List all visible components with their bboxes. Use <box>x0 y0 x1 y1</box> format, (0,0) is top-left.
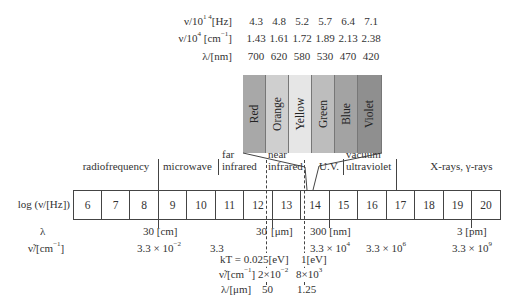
wavelength-30: 30 <box>256 225 267 237</box>
scale-tick: 15 <box>329 190 358 220</box>
scale-tick: 9 <box>158 190 187 220</box>
energy-wavelength-value-2: 1.25 <box>297 283 316 295</box>
scale-tick: 13 <box>272 190 301 220</box>
scale-tick: 19 <box>443 190 472 220</box>
region-microwave: microwave <box>160 160 215 172</box>
wavelength-3pm: 3 [pm] <box>457 225 487 237</box>
wavelength-30cm: 30 [cm] <box>143 225 178 237</box>
scale-tick: 10 <box>186 190 216 220</box>
region-divider <box>396 159 397 190</box>
kt-dashed-line <box>266 160 267 285</box>
region-near-infrared-bottom: infrared <box>268 160 303 172</box>
wavenumber-value: 3.3 × 10−2 <box>137 242 181 254</box>
wavelength-um: [μm] <box>271 225 293 237</box>
region-radiofrequency: radiofrequency <box>79 160 153 172</box>
region-vacuum-uv-top: vacuum <box>346 148 381 160</box>
region-divider <box>343 159 344 175</box>
wavenumber-value: 3.3 × 106 <box>366 242 406 254</box>
region-far-infrared-top: far <box>222 148 234 160</box>
wavelength-label: λ <box>40 225 45 237</box>
scale-tick: 17 <box>386 190 415 220</box>
wavenumber-value: 3.3 × 109 <box>452 242 492 254</box>
region-near-infrared-top: near <box>268 148 287 160</box>
scale-tick: 12 <box>243 190 273 220</box>
ev-label: 1[eV] <box>300 253 328 265</box>
kt-label: kT = 0.025[eV] <box>219 253 290 265</box>
energy-wavelength-label: λ/[μm] <box>221 283 251 295</box>
energy-wavenumber-value-2: 8×103 <box>296 268 322 280</box>
scale-tick: 8 <box>129 190 159 220</box>
wavelength-300nm: 300 [nm] <box>310 225 351 237</box>
energy-wavenumber-value-1: 2×10−2 <box>258 268 288 280</box>
region-divider <box>158 159 159 190</box>
wavenumber-label: ν̃/[cm−1] <box>28 242 64 254</box>
region-divider <box>218 159 219 175</box>
region-vacuum-uv-bottom: ultraviolet <box>346 160 391 172</box>
region-xray-gamma: X-rays, γ-rays <box>414 160 509 172</box>
scale-tick: 18 <box>414 190 444 220</box>
scale-label: log (ν/[Hz]) <box>0 198 70 210</box>
ev-dashed-line <box>304 160 305 285</box>
scale-tick: 16 <box>357 190 387 220</box>
scale-tick: 20 <box>471 190 501 220</box>
region-uv: U.V. <box>319 160 339 172</box>
scale-tick: 11 <box>215 190 244 220</box>
scale-tick: 6 <box>73 190 102 220</box>
energy-wavelength-value-1: 50 <box>262 283 273 295</box>
scale-tick: 7 <box>101 190 130 220</box>
energy-wavenumber-label: ν̃/[cm−1] <box>219 268 255 280</box>
region-far-infrared-bottom: infrared <box>222 160 257 172</box>
